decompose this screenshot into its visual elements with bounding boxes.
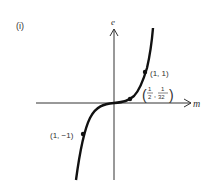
point-label-1-neg1: (1, −1) xyxy=(50,131,74,140)
svg-text:,: , xyxy=(154,91,156,98)
point-half-1-32 xyxy=(128,97,132,101)
x-axis-label: m xyxy=(193,98,200,109)
point-label-1-1: (1, 1) xyxy=(150,69,169,78)
frac2-den: 32 xyxy=(158,94,165,100)
frac2-num: 1 xyxy=(161,86,165,92)
cubic-graph: (i) e m (1, 1) ( 1 2 , 1 32 ) (1, −1) xyxy=(0,0,211,190)
svg-text:): ) xyxy=(169,87,174,103)
point-1-1 xyxy=(143,70,147,74)
point-label-half-1-32: ( 1 2 , 1 32 ) xyxy=(142,86,174,103)
panel-label: (i) xyxy=(16,21,24,31)
y-axis-label: e xyxy=(111,17,115,27)
frac1-den: 2 xyxy=(148,94,152,100)
point-1-neg1 xyxy=(81,132,85,136)
frac1-num: 1 xyxy=(148,86,152,92)
svg-text:(: ( xyxy=(142,87,147,103)
